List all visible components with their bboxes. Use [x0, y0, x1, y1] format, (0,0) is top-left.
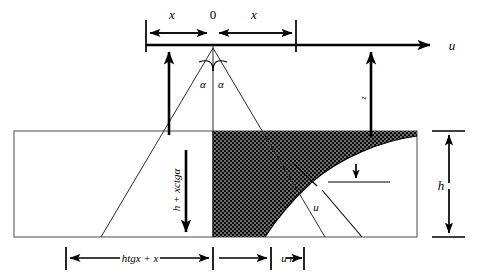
label-layer-h: h [438, 178, 445, 193]
u-leader-line-lower [322, 190, 362, 237]
diagram-svg: x 0 x u α α [0, 0, 481, 278]
curve-marker-group [328, 164, 390, 182]
label-alpha-left: α [200, 78, 206, 90]
label-alpha-right: α [218, 78, 224, 90]
diagram-figure: x 0 x u α α [0, 0, 481, 278]
right-vertical-arrow-group: z [359, 52, 371, 137]
vertical-dimension-group: h + xctgα [170, 150, 186, 232]
label-x-left: x [168, 7, 175, 22]
label-htgx-plus-x: htgx + x [122, 252, 159, 264]
label-h-plus-xctga: h + xctgα [170, 169, 182, 212]
bottom-dimension-left-group: htgx + x [66, 247, 213, 270]
angle-arc-right [213, 61, 227, 71]
label-axis-u: u [449, 38, 456, 53]
wedge-line-left [101, 48, 213, 237]
horizontal-axis-group: u [146, 38, 456, 53]
label-origin: 0 [210, 7, 217, 22]
layer-height-dim-group: h [432, 131, 465, 237]
bottom-dimension-right-group: u n [219, 247, 304, 270]
label-curve-u: u [313, 201, 319, 213]
angle-arc-left [199, 61, 213, 71]
label-x-right: x [250, 7, 257, 22]
label-depth-z: z [359, 96, 368, 101]
